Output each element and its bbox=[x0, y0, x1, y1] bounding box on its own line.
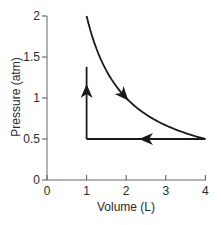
y-axis-label: Pressure (atm) bbox=[9, 57, 23, 136]
pv-diagram-chart: 00.511.52 01234 Volume (L) Pressure (atm… bbox=[0, 0, 221, 225]
y-tick-label: 1 bbox=[33, 91, 40, 105]
y-ticks: 00.511.52 bbox=[23, 9, 47, 187]
y-tick-label: 0 bbox=[33, 173, 40, 187]
x-ticks: 01234 bbox=[44, 175, 209, 198]
x-tick-label: 4 bbox=[202, 184, 209, 198]
isothermal-curve bbox=[87, 16, 206, 139]
y-tick-label: 2 bbox=[33, 9, 40, 23]
axes: 00.511.52 01234 bbox=[23, 9, 209, 198]
x-axis-label: Volume (L) bbox=[97, 200, 155, 214]
x-tick-label: 3 bbox=[162, 184, 169, 198]
x-tick-label: 1 bbox=[83, 184, 90, 198]
x-tick-label: 2 bbox=[123, 184, 130, 198]
y-tick-label: 0.5 bbox=[23, 132, 40, 146]
y-tick-label: 1.5 bbox=[23, 50, 40, 64]
process-paths bbox=[81, 16, 206, 145]
x-tick-label: 0 bbox=[44, 184, 51, 198]
